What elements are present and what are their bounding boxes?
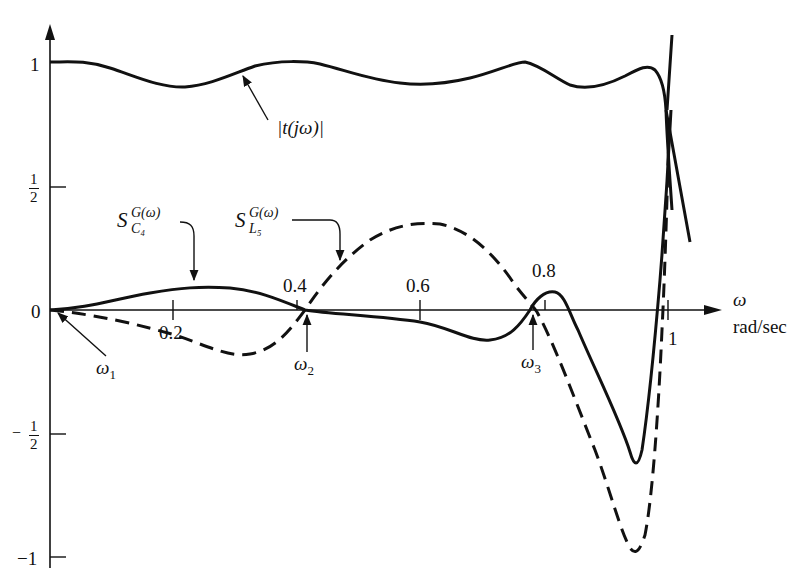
sc4-label-sup: G(ω)	[131, 206, 160, 220]
y-label-half: 1 2	[29, 172, 39, 205]
x-label-0.4: 0.4	[283, 276, 307, 295]
sc4-label: S G(ω) C₄	[117, 210, 128, 231]
y-label-1: 1	[30, 55, 40, 74]
omega3-sub: 3	[534, 361, 541, 376]
sc4-label-arrow	[180, 222, 194, 280]
y-label-half-den: 2	[29, 189, 39, 205]
omega2-label: ω2	[294, 354, 314, 377]
omega1-symbol: ω	[96, 357, 109, 378]
y-label-neg-half: 1 2	[29, 419, 39, 452]
x-label-0.8: 0.8	[532, 261, 556, 280]
y-label-neg-half-sign: −	[12, 425, 21, 441]
t-label-arrow	[243, 76, 268, 120]
y-label-neg-half-den: 2	[29, 436, 39, 452]
sl5-curve	[50, 130, 669, 552]
omega2-sub: 2	[307, 363, 314, 378]
sl5-label-arrow	[292, 220, 340, 260]
sc4-label-sub: C₄	[131, 222, 145, 236]
sensitivity-plot	[0, 0, 802, 582]
omega1-label: ω1	[96, 358, 116, 381]
y-label-neg-1: −1	[17, 549, 37, 568]
omega3-symbol: ω	[521, 351, 534, 372]
sl5-label-s: S	[235, 208, 246, 232]
y-label-half-num: 1	[29, 172, 39, 189]
omega1-arrow	[58, 313, 106, 356]
x-axis-omega-label: ω	[733, 290, 746, 309]
omega2-symbol: ω	[294, 353, 307, 374]
t-magnitude-curve	[50, 62, 672, 210]
omega3-label: ω3	[521, 352, 541, 375]
y-label-0: 0	[31, 302, 41, 321]
omega1-sub: 1	[109, 367, 116, 382]
x-axis-arrow-icon	[704, 305, 722, 315]
x-label-0.6: 0.6	[406, 276, 430, 295]
x-label-0.2: 0.2	[159, 323, 183, 342]
x-axis-units-label: rad/sec	[733, 317, 787, 336]
sl5-label: S G(ω) L₅	[235, 210, 246, 231]
axes	[45, 24, 722, 568]
t-magnitude-label: |t(jω)|	[277, 118, 324, 137]
y-label-neg-half-num: 1	[29, 419, 39, 436]
y-axis-arrow-icon	[45, 24, 55, 40]
sc4-label-s: S	[117, 208, 128, 232]
sl5-label-sup: G(ω)	[249, 206, 278, 220]
x-label-1: 1	[668, 329, 678, 348]
sl5-label-sub: L₅	[249, 222, 262, 236]
